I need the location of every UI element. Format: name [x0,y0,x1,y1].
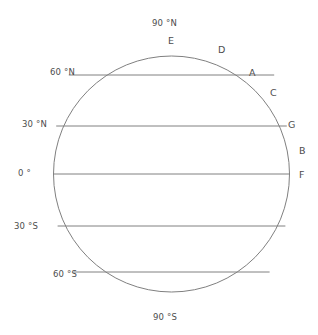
point-label-f: F [299,170,304,180]
latitude-label-90n: 90 °N [152,19,177,28]
latitude-label-0: 0 ° [18,169,31,178]
globe-latitude-diagram: 90 °N 60 °N 30 °N 0 ° 30 °S 60 °S 90 °S … [0,0,318,335]
globe-svg [0,0,318,335]
latitude-label-60s: 60 °S [53,270,77,279]
latitude-label-60n: 60 °N [50,68,75,77]
point-label-g: G [288,120,295,130]
point-label-b: B [299,146,306,156]
point-label-d: D [218,45,225,55]
point-label-a: A [249,68,256,78]
latitude-label-30n: 30 °N [22,120,47,129]
point-label-c: C [270,88,277,98]
point-label-e: E [168,36,174,46]
latitude-label-30s: 30 °S [14,222,38,231]
latitude-label-90s: 90 °S [153,313,177,322]
